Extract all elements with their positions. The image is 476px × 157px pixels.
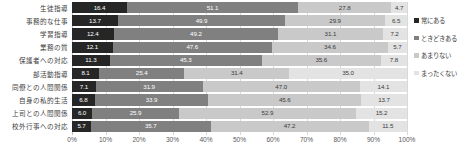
bar-segment: 25.9 <box>92 108 179 119</box>
bar-segment: 47.6 <box>113 42 272 53</box>
gridline-100 <box>407 2 408 135</box>
legend-item[interactable]: あまりない <box>414 51 476 60</box>
bar-segment: 29.9 <box>285 15 385 26</box>
bar-segment: 35.0 <box>289 68 406 79</box>
bar-segment: 5.7 <box>72 121 91 132</box>
bar-value-label: 13.7 <box>89 18 101 24</box>
x-tick-label: 100% <box>399 136 416 143</box>
bar-segment: 52.9 <box>179 108 356 119</box>
bar-value-label: 5.7 <box>393 44 401 50</box>
bar-segment: 35.6 <box>262 55 381 66</box>
bar-row: 11.345.335.67.8 <box>72 55 407 66</box>
bar-segment: 49.9 <box>118 15 285 26</box>
bar-value-label: 31.1 <box>325 31 337 37</box>
category-label: 部活動指導 <box>0 68 68 79</box>
category-label: 学習指導 <box>0 28 68 39</box>
legend-swatch-icon <box>414 18 419 23</box>
bar-value-label: 49.9 <box>196 18 208 24</box>
bar-value-label: 12.1 <box>86 44 98 50</box>
bar-segment: 27.8 <box>298 2 391 13</box>
bar-segment: 33.9 <box>95 94 209 105</box>
bar-value-label: 35.7 <box>145 123 157 129</box>
bar-value-label: 7.8 <box>390 57 398 63</box>
bar-segment: 12.4 <box>72 28 114 39</box>
bar-segment: 25.4 <box>99 68 184 79</box>
bar-value-label: 35.6 <box>315 57 327 63</box>
bar-value-label: 8.1 <box>81 70 89 76</box>
bar-segment: 11.5 <box>369 121 407 132</box>
bar-segment: 7.1 <box>72 81 96 92</box>
bar-value-label: 34.6 <box>324 44 336 50</box>
bar-value-label: 51.1 <box>207 5 219 11</box>
bar-value-label: 35.0 <box>342 70 354 76</box>
bar-row: 12.449.231.17.2 <box>72 28 407 39</box>
legend-label: ときどきある <box>421 34 456 43</box>
bar-value-label: 47.2 <box>284 123 296 129</box>
x-tick-label: 40% <box>199 136 212 143</box>
bar-row: 5.735.747.211.5 <box>72 121 407 132</box>
bar-segment: 31.4 <box>184 68 289 79</box>
chart-legend: 常にあるときどきあるあまりないまったくない <box>414 16 476 86</box>
bar-value-label: 7.2 <box>390 31 398 37</box>
stacked-bar-chart: 生徒指導事務的な仕事学習指導業務の質保護者への対応部活動指導同僚との人間関係自身… <box>0 0 476 157</box>
category-axis-labels: 生徒指導事務的な仕事学習指導業務の質保護者への対応部活動指導同僚との人間関係自身… <box>0 2 68 134</box>
legend-swatch-icon <box>414 71 419 76</box>
x-tick-label: 60% <box>266 136 279 143</box>
bar-value-label: 47.6 <box>186 44 198 50</box>
bar-segment: 7.8 <box>381 55 407 66</box>
bar-value-label: 16.4 <box>94 5 106 11</box>
category-label: 事務的な仕事 <box>0 15 68 26</box>
bar-value-label: 31.4 <box>231 70 243 76</box>
bar-segment: 7.2 <box>383 28 407 39</box>
bar-value-label: 31.9 <box>143 84 155 90</box>
bar-value-label: 33.9 <box>146 97 158 103</box>
bar-value-label: 11.5 <box>382 123 393 129</box>
bar-segment: 5.7 <box>388 42 407 53</box>
legend-item[interactable]: 常にある <box>414 16 476 25</box>
bar-value-label: 4.7 <box>395 5 403 11</box>
legend-label: 常にある <box>421 16 445 25</box>
x-tick-label: 70% <box>300 136 313 143</box>
bar-value-label: 52.9 <box>262 110 274 116</box>
category-label: 同僚との人間関係 <box>0 81 68 92</box>
bar-segment: 45.6 <box>208 94 361 105</box>
bar-row: 8.125.431.435.0 <box>72 68 407 79</box>
x-tick-label: 30% <box>166 136 179 143</box>
bar-row: 16.451.127.84.7 <box>72 2 407 13</box>
bar-segment: 8.1 <box>72 68 99 79</box>
bar-segment: 11.3 <box>72 55 110 66</box>
bar-segment: 6.0 <box>72 108 92 119</box>
legend-label: あまりない <box>421 51 451 60</box>
legend-swatch-icon <box>414 36 419 41</box>
x-tick-label: 20% <box>132 136 145 143</box>
bar-value-label: 45.6 <box>279 97 291 103</box>
bar-segment: 14.1 <box>360 81 407 92</box>
bar-segment: 49.2 <box>114 28 279 39</box>
bar-segment: 34.6 <box>272 42 388 53</box>
bar-value-label: 25.9 <box>130 110 142 116</box>
x-tick-label: 90% <box>367 136 380 143</box>
legend-item[interactable]: ときどきある <box>414 34 476 43</box>
category-label: 生徒指導 <box>0 2 68 13</box>
legend-item[interactable]: まったくない <box>414 69 476 78</box>
bar-segment: 13.7 <box>361 94 407 105</box>
bar-value-label: 12.4 <box>87 31 99 37</box>
bar-value-label: 11.3 <box>85 57 96 63</box>
plot-area: 16.451.127.84.713.749.929.96.512.449.231… <box>72 2 407 135</box>
bar-value-label: 27.8 <box>339 5 351 11</box>
bar-segment: 16.4 <box>72 2 127 13</box>
bar-value-label: 6.0 <box>78 110 86 116</box>
bar-segment: 15.2 <box>356 108 407 119</box>
x-tick-label: 80% <box>333 136 346 143</box>
bar-value-label: 45.3 <box>180 57 192 63</box>
bar-segment: 6.5 <box>385 15 407 26</box>
category-label: 保護者への対応 <box>0 55 68 66</box>
legend-label: まったくない <box>421 69 456 78</box>
category-label: 自身の私的生活 <box>0 94 68 105</box>
bar-segment: 35.7 <box>91 121 210 132</box>
bar-row: 12.147.634.65.7 <box>72 42 407 53</box>
bar-segment: 12.1 <box>72 42 113 53</box>
x-tick-label: 10% <box>99 136 112 143</box>
bar-segment: 13.7 <box>72 15 118 26</box>
bar-value-label: 29.9 <box>329 18 341 24</box>
